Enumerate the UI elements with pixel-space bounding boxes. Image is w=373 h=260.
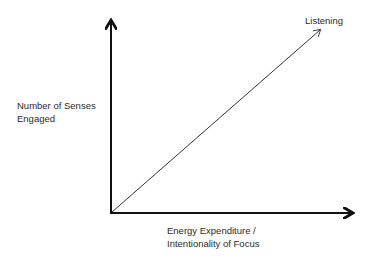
x-axis-label-line-1: Energy Expenditure / [167,224,259,237]
listening-label: Listening [305,14,343,27]
listening-line [112,30,320,212]
x-axis-label-line-2: Intentionality of Focus [167,237,259,250]
x-axis-label: Energy Expenditure / Intentionality of F… [167,224,259,250]
y-axis-label-line-2: Engaged [17,112,96,125]
y-axis-label: Number of Senses Engaged [17,99,96,125]
y-axis-label-line-1: Number of Senses [17,99,96,112]
diagram-canvas [0,0,373,260]
